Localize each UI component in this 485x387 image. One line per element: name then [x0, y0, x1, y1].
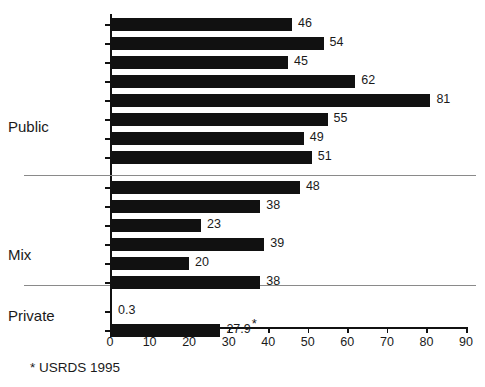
xtick-90	[466, 327, 468, 333]
bar-value-italy: 20	[195, 255, 209, 270]
xtick-70	[387, 327, 389, 333]
xtick-20	[189, 327, 191, 333]
bar-austria	[110, 181, 300, 194]
bar-value-canada: 46	[298, 16, 312, 31]
bar-uk	[110, 37, 324, 50]
xtick-0	[110, 327, 112, 333]
bar-japan	[110, 305, 112, 318]
xtick-label-50: 50	[301, 335, 315, 349]
xtick-label-40: 40	[261, 335, 275, 349]
xtick-60	[347, 327, 349, 333]
bar-value-austria: 48	[306, 179, 320, 194]
bar-usa	[110, 324, 220, 337]
group-label-public: Public	[8, 118, 49, 135]
bar-finland	[110, 75, 355, 88]
xtick-label-90: 90	[459, 335, 473, 349]
asterisk-marker: *	[252, 319, 257, 329]
xtick-label-30: 30	[222, 335, 236, 349]
xtick-30	[229, 327, 231, 333]
bar-value-france: 39	[270, 236, 284, 251]
bar-spain	[110, 200, 260, 213]
bar-denmark	[110, 56, 288, 69]
bar-sweden	[110, 113, 328, 126]
bar-value-denmark: 45	[294, 54, 308, 69]
xtick-50	[308, 327, 310, 333]
xtick-10	[150, 327, 152, 333]
bar-norway	[110, 94, 430, 107]
bar-value-spain: 38	[266, 198, 280, 213]
xtick-label-0: 0	[107, 335, 114, 349]
footnote: * USRDS 1995	[30, 360, 120, 375]
bar-value-uk: 54	[330, 35, 344, 50]
bar-value-finland: 62	[361, 73, 375, 88]
xtick-label-70: 70	[380, 335, 394, 349]
bar-belgium	[110, 276, 260, 289]
bar-germany	[110, 219, 201, 232]
bar-value-holland: 49	[310, 130, 324, 145]
bar-value-japan: 0.3	[118, 303, 135, 318]
bar-value-sweden: 55	[334, 111, 348, 126]
xtick-40	[268, 327, 270, 333]
bar-value-switzerland: 51	[318, 149, 332, 164]
bar-switzerland	[110, 151, 312, 164]
group-label-mix: Mix	[8, 246, 31, 263]
bar-value-belgium: 38	[266, 274, 280, 289]
plot-area: Canada 46 UK 54 Denmark 45 Finland 62 No…	[110, 14, 466, 327]
xtick-label-60: 60	[340, 335, 354, 349]
group-label-private: Private	[8, 307, 55, 324]
bar-value-norway: 81	[436, 92, 450, 107]
xtick-label-80: 80	[419, 335, 433, 349]
xtick-80	[426, 327, 428, 333]
bar-canada	[110, 18, 292, 31]
bar-italy	[110, 257, 189, 270]
xtick-label-10: 10	[143, 335, 157, 349]
bar-france	[110, 238, 264, 251]
xtick-label-20: 20	[182, 335, 196, 349]
bar-holland	[110, 132, 304, 145]
bar-chart: Public Mix Private Canada 46 UK 54 Denma…	[0, 0, 485, 387]
bar-value-germany: 23	[207, 217, 221, 232]
